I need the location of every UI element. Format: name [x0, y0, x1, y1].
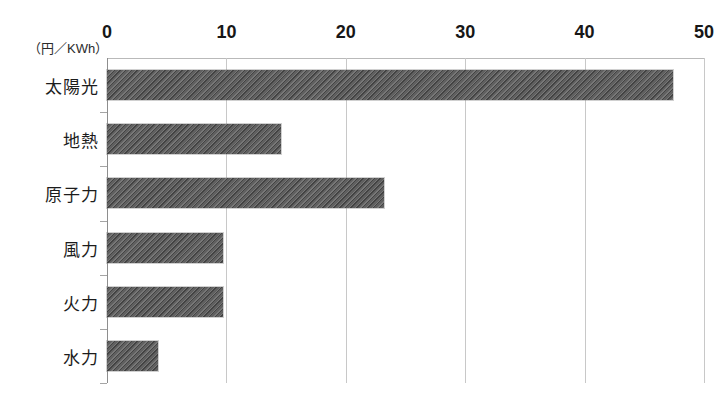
category-label-1: 地熱: [7, 127, 99, 152]
category-label-5: 水力: [7, 343, 99, 368]
bar-3: [107, 233, 223, 263]
category-label-3: 風力: [7, 235, 99, 260]
category-label-4: 火力: [7, 289, 99, 314]
bar-chart: （円／KWh） 01020304050 太陽光地熱原子力風力火力水力: [0, 0, 718, 394]
y-tick-0: [100, 112, 107, 113]
gridline-0: [107, 58, 108, 383]
y-tick-5: [100, 383, 107, 384]
bar-4: [107, 287, 223, 317]
bar-2: [107, 178, 384, 208]
y-tick-1: [100, 166, 107, 167]
x-tick-label-0: 0: [102, 22, 112, 43]
category-label-0: 太陽光: [7, 73, 99, 98]
gridline-10: [226, 58, 227, 383]
bar-0: [107, 70, 673, 100]
plot-area: [107, 58, 704, 383]
bar-5: [107, 341, 158, 371]
y-axis-category-labels: 太陽光地熱原子力風力火力水力: [0, 0, 99, 394]
y-tick-3: [100, 275, 107, 276]
x-tick-label-20: 20: [336, 22, 356, 43]
gridline-40: [585, 58, 586, 383]
bar-1: [107, 124, 281, 154]
x-tick-label-50: 50: [694, 22, 714, 43]
x-tick-label-10: 10: [216, 22, 236, 43]
x-tick-label-30: 30: [455, 22, 475, 43]
x-tick-label-40: 40: [575, 22, 595, 43]
y-tick-2: [100, 221, 107, 222]
gridline-20: [346, 58, 347, 383]
gridline-50: [704, 58, 705, 383]
gridline-30: [465, 58, 466, 383]
y-tick-4: [100, 329, 107, 330]
category-label-2: 原子力: [7, 181, 99, 206]
